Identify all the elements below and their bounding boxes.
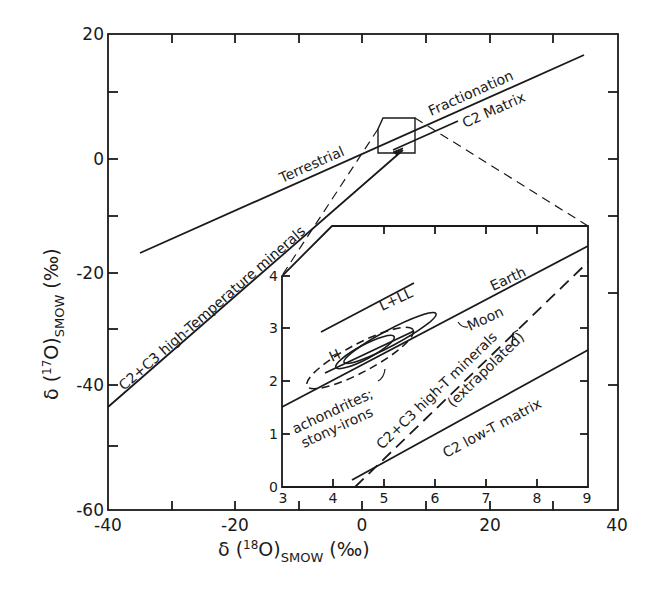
- svg-text:6: 6: [431, 490, 440, 506]
- svg-text:-60: -60: [76, 500, 104, 520]
- svg-text:0: 0: [93, 149, 104, 169]
- svg-text:2: 2: [269, 373, 278, 389]
- main-right-ticks: [608, 92, 618, 385]
- inset-y-tick-labels: 0 1 2 3 4: [269, 268, 278, 495]
- svg-text:0: 0: [357, 515, 368, 535]
- main-top-ticks: [172, 34, 553, 43]
- svg-text:1: 1: [269, 426, 278, 442]
- svg-text:8: 8: [533, 490, 542, 506]
- inset-plot-frame: [282, 226, 588, 487]
- main-x-tick-labels: -40 -20 0 20 40: [94, 515, 628, 535]
- svg-text:-20: -20: [221, 515, 249, 535]
- svg-text:7: 7: [482, 490, 491, 506]
- svg-text:5: 5: [380, 490, 389, 506]
- svg-text:3: 3: [279, 490, 288, 506]
- svg-text:0: 0: [269, 479, 278, 495]
- main-left-ticks: [108, 92, 118, 446]
- svg-text:4: 4: [329, 490, 338, 506]
- y-axis-title: δ (17O)SMOW(‰): [40, 248, 67, 400]
- oxygen-isotope-chart: -40 -20 0 20 40 20 0 -20 -40 -60 3 4 5 6…: [0, 0, 654, 590]
- svg-text:-40: -40: [76, 375, 104, 395]
- svg-text:3: 3: [269, 320, 278, 336]
- main-bottom-ticks: [172, 501, 553, 510]
- svg-text:20: 20: [82, 24, 104, 44]
- inset-x-tick-labels: 3 4 5 6 7 8 9: [279, 490, 592, 506]
- main-y-tick-labels: 20 0 -20 -40 -60: [76, 24, 104, 520]
- c2c3-high-temp-label: C2+C3 high-Temperature minerals: [115, 223, 308, 394]
- svg-text:4: 4: [269, 268, 278, 284]
- svg-text:9: 9: [583, 490, 592, 506]
- svg-text:20: 20: [479, 515, 501, 535]
- terrestrial-fractionation-line: [140, 55, 584, 253]
- svg-text:40: 40: [606, 515, 628, 535]
- svg-text:-20: -20: [76, 263, 104, 283]
- x-axis-title: δ (18O)SMOW(‰): [218, 538, 370, 565]
- terrestrial-label: Terrestrial: [276, 143, 347, 186]
